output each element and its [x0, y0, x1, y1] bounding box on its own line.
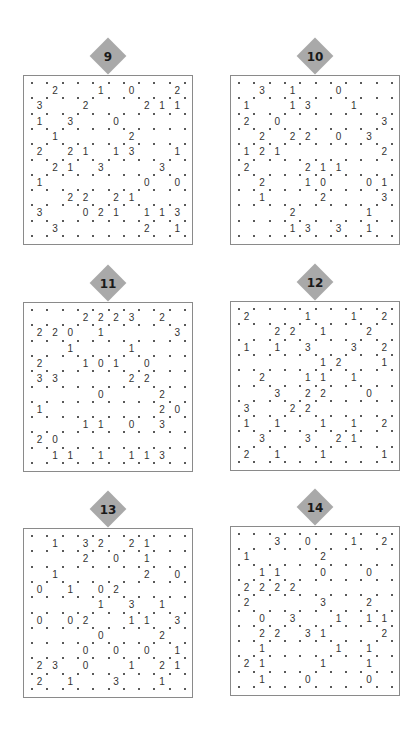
cell-clue[interactable] [300, 611, 315, 626]
cell-clue[interactable]: 3 [78, 536, 93, 551]
cell-clue[interactable]: 2 [32, 144, 47, 159]
cell-clue[interactable] [170, 341, 185, 356]
cell-clue[interactable] [361, 416, 376, 431]
cell-clue[interactable]: 3 [124, 144, 139, 159]
cell-clue[interactable]: 0 [170, 567, 185, 582]
cell-clue[interactable]: 1 [361, 656, 376, 671]
cell-clue[interactable] [78, 325, 93, 340]
cell-clue[interactable] [63, 551, 78, 566]
cell-clue[interactable]: 1 [346, 370, 361, 385]
cell-clue[interactable]: 0 [78, 658, 93, 673]
cell-clue[interactable]: 1 [109, 356, 124, 371]
cell-clue[interactable] [300, 83, 315, 98]
cell-clue[interactable] [32, 341, 47, 356]
cell-clue[interactable] [47, 674, 62, 689]
cell-clue[interactable]: 0 [170, 175, 185, 190]
cell-clue[interactable] [109, 175, 124, 190]
cell-clue[interactable]: 0 [93, 582, 108, 597]
cell-clue[interactable]: 1 [139, 448, 154, 463]
cell-clue[interactable] [377, 401, 392, 416]
cell-clue[interactable] [346, 160, 361, 175]
cell-clue[interactable] [154, 144, 169, 159]
cell-clue[interactable] [154, 190, 169, 205]
cell-clue[interactable] [93, 175, 108, 190]
cell-clue[interactable] [270, 401, 285, 416]
cell-clue[interactable] [254, 205, 269, 220]
cell-clue[interactable]: 0 [32, 613, 47, 628]
cell-clue[interactable] [377, 98, 392, 113]
cell-clue[interactable]: 0 [93, 628, 108, 643]
cell-clue[interactable] [285, 175, 300, 190]
cell-clue[interactable]: 0 [361, 386, 376, 401]
cell-clue[interactable] [300, 114, 315, 129]
cell-clue[interactable] [346, 626, 361, 641]
cell-clue[interactable] [254, 160, 269, 175]
cell-clue[interactable] [239, 641, 254, 656]
cell-clue[interactable]: 3 [346, 340, 361, 355]
cell-clue[interactable] [63, 83, 78, 98]
cell-clue[interactable]: 2 [139, 221, 154, 236]
cell-clue[interactable]: 1 [254, 190, 269, 205]
cell-clue[interactable] [377, 324, 392, 339]
cell-clue[interactable]: 2 [285, 205, 300, 220]
cell-clue[interactable]: 3 [170, 325, 185, 340]
cell-clue[interactable] [32, 387, 47, 402]
cell-clue[interactable] [346, 672, 361, 687]
cell-clue[interactable]: 1 [239, 144, 254, 159]
cell-clue[interactable]: 1 [170, 221, 185, 236]
cell-clue[interactable]: 2 [300, 129, 315, 144]
cell-clue[interactable]: 3 [154, 417, 169, 432]
cell-clue[interactable] [32, 536, 47, 551]
cell-clue[interactable]: 2 [78, 190, 93, 205]
cell-clue[interactable] [377, 83, 392, 98]
cell-clue[interactable] [270, 611, 285, 626]
cell-clue[interactable]: 1 [124, 613, 139, 628]
cell-clue[interactable] [154, 567, 169, 582]
cell-clue[interactable] [285, 565, 300, 580]
cell-clue[interactable]: 3 [361, 129, 376, 144]
cell-clue[interactable] [239, 672, 254, 687]
cell-clue[interactable] [285, 431, 300, 446]
cell-clue[interactable] [154, 129, 169, 144]
cell-clue[interactable] [93, 674, 108, 689]
cell-clue[interactable] [78, 114, 93, 129]
cell-clue[interactable]: 2 [331, 431, 346, 446]
cell-clue[interactable] [32, 643, 47, 658]
cell-clue[interactable] [331, 324, 346, 339]
cell-clue[interactable] [170, 432, 185, 447]
cell-clue[interactable] [331, 309, 346, 324]
cell-clue[interactable] [78, 371, 93, 386]
cell-clue[interactable] [170, 114, 185, 129]
cell-clue[interactable]: 0 [300, 672, 315, 687]
cell-clue[interactable] [300, 447, 315, 462]
cell-clue[interactable]: 3 [32, 98, 47, 113]
cell-clue[interactable]: 2 [300, 401, 315, 416]
cell-clue[interactable] [254, 401, 269, 416]
cell-clue[interactable] [377, 580, 392, 595]
cell-clue[interactable] [285, 447, 300, 462]
cell-clue[interactable]: 3 [300, 221, 315, 236]
cell-clue[interactable]: 0 [270, 114, 285, 129]
cell-clue[interactable] [285, 656, 300, 671]
cell-clue[interactable] [239, 83, 254, 98]
cell-clue[interactable] [32, 160, 47, 175]
cell-clue[interactable] [300, 416, 315, 431]
cell-clue[interactable] [32, 551, 47, 566]
cell-clue[interactable]: 2 [239, 160, 254, 175]
cell-clue[interactable] [170, 160, 185, 175]
cell-clue[interactable] [78, 432, 93, 447]
cell-clue[interactable] [170, 310, 185, 325]
cell-clue[interactable]: 0 [300, 534, 315, 549]
cell-clue[interactable] [63, 371, 78, 386]
cell-clue[interactable]: 1 [78, 417, 93, 432]
cell-clue[interactable] [361, 401, 376, 416]
cell-clue[interactable] [239, 386, 254, 401]
cell-clue[interactable]: 3 [154, 448, 169, 463]
cell-clue[interactable]: 1 [346, 534, 361, 549]
cell-clue[interactable]: 2 [377, 144, 392, 159]
cell-clue[interactable]: 1 [300, 370, 315, 385]
dot-grid[interactable]: 3101131203222031212221121001123211331 [239, 83, 392, 236]
cell-clue[interactable] [47, 582, 62, 597]
cell-clue[interactable]: 1 [109, 144, 124, 159]
cell-clue[interactable] [346, 580, 361, 595]
